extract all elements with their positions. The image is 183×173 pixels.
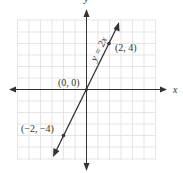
point-label-2-4: (2, 4)	[115, 42, 137, 54]
point-label-neg2-neg4: (−2, −4)	[21, 123, 54, 135]
y-axis-label: y	[83, 0, 89, 4]
point-neg2-neg4	[62, 134, 66, 138]
point-origin	[85, 88, 88, 91]
point-label-origin: (0, 0)	[58, 77, 80, 89]
coordinate-graph: y x y = 2x (2, 4) (0, 0) (−2, −4)	[0, 0, 183, 173]
x-axis-label: x	[172, 84, 178, 95]
